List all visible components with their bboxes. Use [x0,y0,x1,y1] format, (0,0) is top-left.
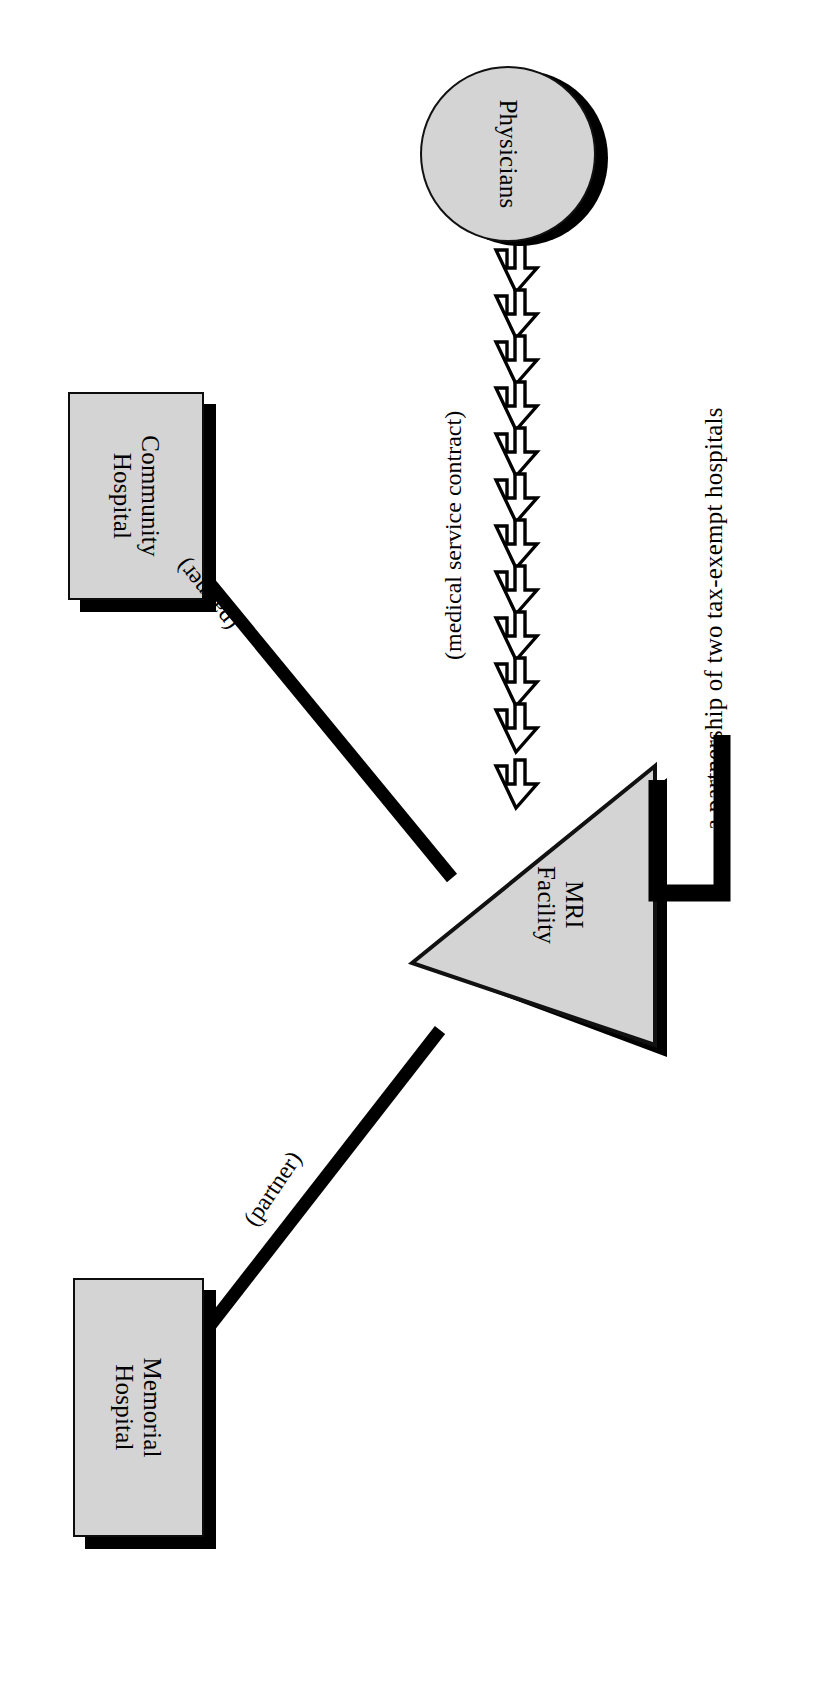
chain-arrow [496,428,537,476]
chain-arrow [496,520,537,568]
edge-memorial-mri [205,1030,440,1332]
community-hospital-label: Community Hospital [32,428,240,564]
chain-arrow [496,566,537,614]
chain-arrow [496,244,537,292]
edge-community-mri [207,580,452,878]
chain-arrow [496,290,537,338]
diagram-caption: a partnership of two tax-exempt hospital… [700,407,728,830]
chain-arrow [496,336,537,384]
chain-arrow [496,704,537,752]
chain-arrow [496,658,537,706]
chain-arrow [496,612,537,660]
chain-arrow [496,760,537,808]
edge-label-medical-service-contract: (medical service contract) [440,411,467,660]
chain-arrow [496,382,537,430]
chain-arrow [496,474,537,522]
arrow-chain-physicians-to-mri [496,244,537,808]
physicians-node-label: Physicians [420,66,596,242]
mri-facility-label: MRI Facility [500,815,620,995]
memorial-hospital-label: Memorial Hospital [9,1342,268,1473]
diagram-canvas: Physicians Community Hospital Memorial H… [0,0,834,1685]
